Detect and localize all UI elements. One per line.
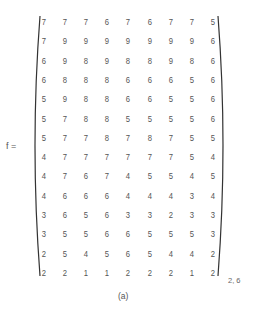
matrix-cell: 4	[122, 190, 134, 202]
matrix-cell: 7	[122, 132, 134, 144]
matrix-cell: 4	[122, 170, 134, 182]
matrix-cell: 5	[59, 228, 71, 240]
matrix-cell: 7	[101, 170, 113, 182]
matrix-cell: 8	[122, 55, 134, 67]
matrix-cell: 3	[144, 209, 156, 221]
matrix-grid: 7776767757999999966989889866888666565988…	[0, 0, 253, 315]
matrix-cell: 6	[122, 228, 134, 240]
matrix-cell: 6	[207, 55, 219, 67]
matrix-cell: 5	[186, 74, 198, 86]
matrix-cell: 8	[59, 74, 71, 86]
matrix-cell: 8	[144, 55, 156, 67]
matrix-cell: 2	[165, 267, 177, 279]
matrix-cell: 5	[80, 228, 92, 240]
matrix-cell: 8	[144, 132, 156, 144]
matrix-cell: 7	[38, 35, 50, 47]
matrix-cell: 7	[165, 16, 177, 28]
matrix-cell: 7	[186, 16, 198, 28]
matrix-cell: 9	[59, 55, 71, 67]
matrix-cell: 4	[186, 248, 198, 260]
matrix-cell: 9	[144, 35, 156, 47]
matrix-cell: 1	[186, 267, 198, 279]
matrix-cell: 6	[101, 228, 113, 240]
matrix-cell: 5	[186, 113, 198, 125]
matrix-cell: 3	[207, 228, 219, 240]
matrix-cell: 3	[186, 209, 198, 221]
matrix-cell: 7	[122, 16, 134, 28]
matrix-cell: 9	[165, 35, 177, 47]
matrix-cell: 3	[186, 190, 198, 202]
matrix-cell: 5	[165, 228, 177, 240]
matrix-cell: 6	[207, 35, 219, 47]
matrix-cell: 3	[38, 228, 50, 240]
matrix-cell: 4	[38, 151, 50, 163]
matrix-cell: 5	[144, 248, 156, 260]
matrix-cell: 3	[207, 209, 219, 221]
matrix-cell: 5	[38, 132, 50, 144]
matrix-cell: 7	[80, 132, 92, 144]
matrix-subscript: 2, 6	[228, 276, 241, 285]
matrix-cell: 8	[80, 74, 92, 86]
matrix-cell: 5	[186, 151, 198, 163]
matrix-cell: 4	[38, 190, 50, 202]
matrix-cell: 6	[207, 93, 219, 105]
matrix-cell: 6	[101, 190, 113, 202]
matrix-cell: 5	[80, 209, 92, 221]
matrix-cell: 8	[101, 132, 113, 144]
matrix-cell: 9	[59, 93, 71, 105]
matrix-cell: 5	[207, 170, 219, 182]
matrix-cell: 6	[122, 74, 134, 86]
matrix-cell: 6	[101, 16, 113, 28]
matrix-cell: 6	[122, 248, 134, 260]
matrix-cell: 5	[186, 93, 198, 105]
matrix-cell: 2	[38, 267, 50, 279]
matrix-cell: 5	[165, 93, 177, 105]
matrix-cell: 9	[59, 35, 71, 47]
matrix-cell: 6	[165, 74, 177, 86]
matrix-cell: 2	[59, 267, 71, 279]
matrix-cell: 7	[165, 132, 177, 144]
matrix-cell: 1	[80, 267, 92, 279]
matrix-cell: 9	[101, 55, 113, 67]
matrix-cell: 4	[80, 248, 92, 260]
matrix-cell: 5	[165, 113, 177, 125]
matrix-cell: 2	[144, 267, 156, 279]
matrix-cell: 5	[59, 248, 71, 260]
matrix-cell: 9	[80, 35, 92, 47]
matrix-cell: 5	[144, 170, 156, 182]
matrix-cell: 7	[59, 113, 71, 125]
matrix-cell: 5	[144, 228, 156, 240]
matrix-cell: 6	[207, 113, 219, 125]
matrix-cell: 6	[59, 190, 71, 202]
matrix-cell: 4	[207, 190, 219, 202]
matrix-cell: 7	[59, 170, 71, 182]
matrix-cell: 5	[144, 113, 156, 125]
matrix-cell: 7	[59, 132, 71, 144]
matrix-cell: 7	[59, 16, 71, 28]
matrix-cell: 3	[38, 209, 50, 221]
matrix-cell: 9	[186, 35, 198, 47]
matrix-cell: 2	[38, 248, 50, 260]
matrix-cell: 7	[80, 16, 92, 28]
matrix-cell: 8	[80, 93, 92, 105]
matrix-cell: 1	[101, 267, 113, 279]
matrix-cell: 3	[122, 209, 134, 221]
matrix-cell: 6	[80, 170, 92, 182]
matrix-cell: 5	[186, 228, 198, 240]
matrix-cell: 8	[186, 55, 198, 67]
matrix-cell: 7	[165, 151, 177, 163]
matrix-cell: 4	[207, 151, 219, 163]
matrix-cell: 7	[38, 16, 50, 28]
matrix-cell: 8	[101, 113, 113, 125]
matrix-cell: 4	[38, 170, 50, 182]
matrix-cell: 6	[144, 93, 156, 105]
matrix-cell: 9	[165, 55, 177, 67]
matrix-cell: 6	[80, 190, 92, 202]
matrix-cell: 6	[101, 209, 113, 221]
matrix-cell: 7	[122, 151, 134, 163]
matrix-cell: 6	[207, 74, 219, 86]
matrix-cell: 6	[38, 55, 50, 67]
matrix-cell: 6	[122, 93, 134, 105]
matrix-cell: 5	[122, 113, 134, 125]
matrix-cell: 4	[165, 248, 177, 260]
